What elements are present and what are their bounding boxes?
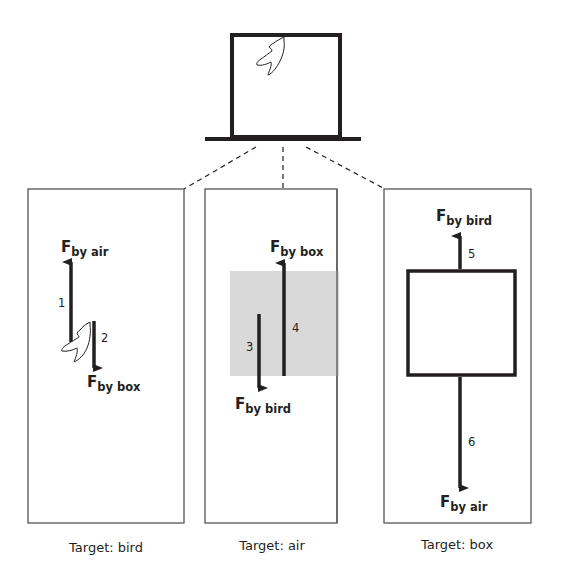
force-label-5: Fby bird: [436, 207, 492, 228]
bird-icon: [62, 322, 91, 362]
force-label-4: Fby box: [270, 238, 324, 259]
force-number-5: 5: [468, 247, 475, 261]
force-number-1: 1: [58, 296, 65, 310]
dashed-connectors: [184, 147, 385, 189]
panel-target-bird: Fby air 1 2 Fby box: [28, 189, 184, 523]
force-diagram: Fby air 1 2 Fby box 3 Fby bird 4 Fby box: [0, 0, 561, 569]
force-label-2: Fby box: [87, 373, 141, 394]
panel-target-air: 3 Fby bird 4 Fby box: [205, 189, 339, 523]
scene-box-with-bird: [205, 35, 361, 139]
box-object: [408, 271, 515, 375]
panel-target-box: 5 Fby bird 6 Fby air: [384, 189, 531, 523]
force-number-6: 6: [468, 435, 475, 449]
caption-target-air: Target: air: [238, 538, 305, 553]
caption-target-box: Target: box: [420, 537, 494, 552]
force-label-1: Fby air: [61, 238, 109, 259]
force-label-6: Fby air: [440, 493, 488, 514]
panel-frame: [28, 189, 184, 523]
force-number-2: 2: [101, 331, 108, 345]
force-number-4: 4: [292, 321, 299, 335]
force-label-3: Fby bird: [235, 395, 291, 416]
caption-target-bird: Target: bird: [68, 540, 143, 555]
force-number-3: 3: [246, 340, 253, 354]
box-outline: [232, 35, 340, 137]
bird-icon: [257, 37, 285, 75]
